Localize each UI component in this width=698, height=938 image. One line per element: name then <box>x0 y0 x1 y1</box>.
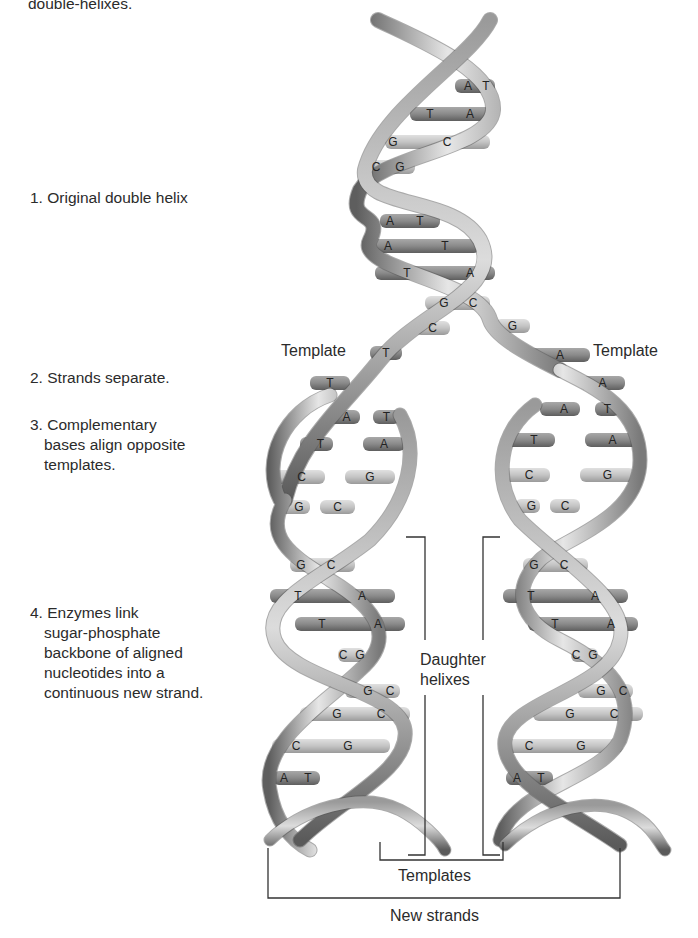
base-letter: G <box>588 648 597 662</box>
base-letter: T <box>530 433 538 447</box>
base-letter: T <box>326 376 334 390</box>
base-letter: A <box>466 107 474 121</box>
base-letter: T <box>527 589 535 603</box>
base-letter: T <box>551 617 559 631</box>
base-letter: T <box>318 617 326 631</box>
base-letter: C <box>428 321 437 335</box>
base-letter: G <box>603 468 612 482</box>
base-letter: T <box>403 266 411 280</box>
base-letter: C <box>327 558 336 572</box>
base-letter: C <box>292 739 301 753</box>
base-letter: G <box>527 499 536 513</box>
dna-replication-illustration: ATTAGCCGATATTAGCCTTGAAATTACGGCATTACGGCGC… <box>0 0 698 938</box>
base-letter: A <box>358 589 366 603</box>
base-letter: A <box>591 589 599 603</box>
template-label-left: Template <box>281 341 346 361</box>
base-letter: A <box>560 402 568 416</box>
daughter-base-pair <box>295 617 405 631</box>
daughter-bracket-right <box>483 537 500 855</box>
base-letter: T <box>317 437 325 451</box>
base-letter: C <box>443 135 452 149</box>
base-letter: C <box>377 707 386 721</box>
base-letter: A <box>386 214 394 228</box>
base-letter: G <box>363 684 372 698</box>
base-letter: A <box>464 79 472 93</box>
base-letter: G <box>565 707 574 721</box>
base-letter: C <box>610 707 619 721</box>
base-letter: T <box>383 410 391 424</box>
template-label-right: Template <box>593 341 658 361</box>
base-letter: C <box>297 470 306 484</box>
base-letter: C <box>525 468 534 482</box>
base-letter: C <box>339 648 348 662</box>
base-letter: T <box>304 771 312 785</box>
base-letter: T <box>537 771 545 785</box>
base-letter: A <box>380 437 388 451</box>
base-letter: C <box>333 500 342 514</box>
base-letter: A <box>342 410 350 424</box>
daughter-label-line-2: helixes <box>420 670 486 690</box>
base-letter: A <box>556 348 564 362</box>
base-letter: G <box>332 707 341 721</box>
base-letter: A <box>607 617 615 631</box>
base-letter: T <box>426 107 434 121</box>
base-letter: G <box>576 739 585 753</box>
base-letter: G <box>388 135 397 149</box>
base-letter: T <box>294 589 302 603</box>
base-letter: C <box>561 499 570 513</box>
base-letter: A <box>384 239 392 253</box>
base-letter: T <box>416 214 424 228</box>
base-letter: G <box>395 160 404 174</box>
base-letter: A <box>598 376 606 390</box>
base-letter: C <box>619 684 628 698</box>
base-letter: T <box>382 346 390 360</box>
base-letter: G <box>439 296 448 310</box>
base-letter: G <box>296 558 305 572</box>
base-letter: C <box>525 739 534 753</box>
daughter-helixes-label: Daughter helixes <box>420 650 486 690</box>
base-letter: C <box>560 558 569 572</box>
base-letter: A <box>466 266 474 280</box>
base-letter: C <box>372 160 381 174</box>
daughter-label-line-1: Daughter <box>420 650 486 670</box>
base-letter: G <box>343 739 352 753</box>
templates-label: Templates <box>398 866 471 886</box>
base-letter: A <box>513 771 521 785</box>
base-letter: T <box>482 79 490 93</box>
base-letter: G <box>508 319 517 333</box>
base-letter: A <box>374 617 382 631</box>
base-letter: G <box>365 470 374 484</box>
base-letter: T <box>604 402 612 416</box>
base-letter: A <box>608 433 616 447</box>
daughter-bracket-left <box>406 537 425 855</box>
base-letter: A <box>280 771 288 785</box>
base-letter: G <box>596 684 605 698</box>
base-letter: G <box>355 648 364 662</box>
base-letter: G <box>529 558 538 572</box>
base-letter: C <box>469 296 478 310</box>
base-letter: T <box>441 239 449 253</box>
base-letter: C <box>572 648 581 662</box>
base-letter: G <box>294 500 303 514</box>
base-letter: C <box>386 684 395 698</box>
new-strands-label: New strands <box>390 906 479 926</box>
